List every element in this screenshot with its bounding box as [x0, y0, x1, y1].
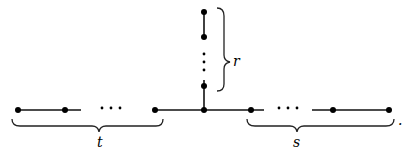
label-r: r [233, 53, 241, 69]
node-left-3 [152, 107, 158, 113]
brace-s [247, 119, 394, 132]
vertical-ellipsis [203, 53, 206, 72]
node-left-2 [62, 107, 68, 113]
tree-diagram: t s r . [0, 0, 412, 153]
label-s: s [293, 134, 300, 150]
brace-t [12, 119, 163, 132]
left-ellipsis [101, 107, 122, 110]
brace-r [217, 8, 230, 91]
node-vertical-3 [201, 83, 207, 89]
right-ellipsis [278, 107, 299, 110]
node-vertical-2 [201, 34, 207, 40]
node-right-1 [248, 107, 254, 113]
trailing-period: . [398, 112, 402, 128]
node-center [201, 107, 207, 113]
label-t: t [97, 134, 103, 150]
node-vertical-1 [201, 9, 207, 15]
node-right-3 [386, 107, 392, 113]
node-right-2 [330, 107, 336, 113]
node-left-1 [15, 107, 21, 113]
